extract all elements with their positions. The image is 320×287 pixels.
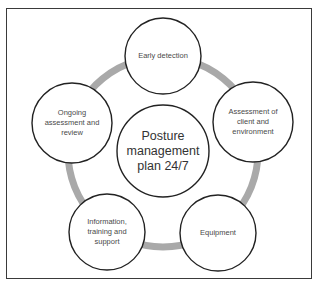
center-label: Posture management plan 24/7 bbox=[117, 105, 209, 197]
node-label-information-training-support: Information, training and support bbox=[69, 194, 145, 270]
node-label-early-detection: Early detection bbox=[125, 18, 201, 94]
node-label-equipment: Equipment bbox=[180, 195, 256, 271]
node-label-ongoing-assessment-review: Ongoing assessment and review bbox=[32, 83, 112, 163]
node-label-assessment-client-environment: Assessment of client and environment bbox=[213, 82, 293, 162]
